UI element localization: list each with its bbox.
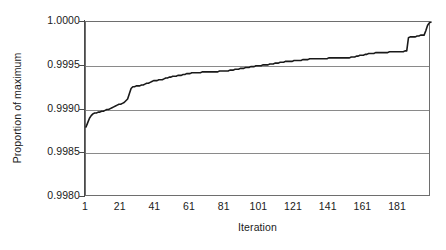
x-tick-label: 61 [183,200,195,213]
x-axis-tick-labels: 121416181101121141161181 [85,200,430,214]
x-tick-label: 1 [82,200,88,213]
y-axis-title: Proportion of maximum [10,8,24,208]
x-tick-label: 141 [319,200,337,213]
series-line-proportion-of-maximum [86,22,431,197]
y-tick-label: 0.9990 [36,103,80,114]
x-axis-title: Iteration [85,221,430,234]
x-tick-label: 121 [284,200,302,213]
x-tick-label: 181 [388,200,406,213]
x-tick-label: 21 [114,200,126,213]
x-tick-label: 161 [353,200,371,213]
y-tick-label: 0.9985 [36,146,80,157]
y-tick-label: 0.9995 [36,59,80,70]
y-tick-label: 1.0000 [36,15,80,26]
x-tick-label: 101 [249,200,267,213]
y-tick-label: 0.9980 [36,190,80,201]
y-axis-tick-labels: 1.00000.99950.99900.99850.9980 [28,0,80,250]
chart-figure: Proportion of maximum 1.00000.99950.9990… [0,0,446,250]
plot-area [85,21,430,196]
x-tick-label: 81 [218,200,230,213]
x-tick-label: 41 [148,200,160,213]
y-tickmark [79,196,85,197]
